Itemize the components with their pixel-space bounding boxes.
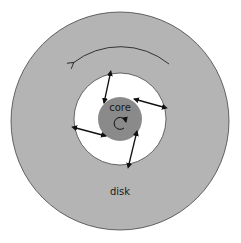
disk-label: disk	[110, 186, 130, 197]
diagram-canvas: core disk	[0, 0, 241, 243]
core-label: core	[109, 102, 131, 113]
